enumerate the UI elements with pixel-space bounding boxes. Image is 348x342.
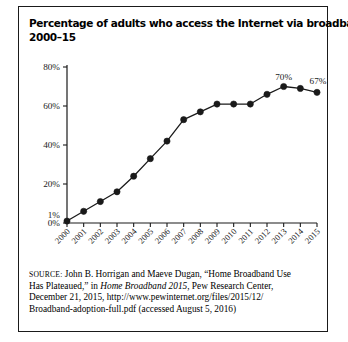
data-series-broadband (64, 83, 320, 224)
x-axis-tick-label: 2002 (86, 226, 105, 245)
data-point (81, 208, 87, 214)
figure-container: Percentage of adults who access the Inte… (18, 6, 328, 332)
source-text: Broadband-adoption-full.pdf (accessed Au… (29, 304, 236, 314)
x-axis-tick-label: 2003 (103, 226, 122, 245)
x-axis-tick-label: 2014 (286, 226, 306, 246)
data-point-label: 67% (310, 76, 327, 86)
data-point (131, 173, 137, 179)
series-line (67, 87, 317, 222)
y-axis-tick-label: 20% (43, 179, 60, 189)
source-line: Has Plateaued,” in Home Broadband 2015, … (29, 281, 319, 293)
x-axis-tick-label: 2015 (303, 226, 322, 245)
y-axis-tick-label: 60% (43, 101, 60, 111)
chart-title-line-2: 2000–15 (29, 30, 319, 44)
source-text: December 21, 2015, http://www.pewinterne… (29, 292, 263, 302)
x-axis-tick-label: 2007 (169, 226, 189, 246)
x-axis-tick-label: 2005 (136, 226, 155, 245)
x-axis-tick-label: 2011 (236, 226, 255, 245)
data-point (231, 101, 237, 107)
source-note: SOURCE: John B. Horrigan and Maeve Dugan… (29, 269, 319, 315)
data-point (64, 218, 70, 224)
data-point (214, 101, 220, 107)
chart-title-line-1: Percentage of adults who access the Inte… (29, 16, 319, 30)
data-point-label: 70% (275, 72, 292, 82)
y-axis-tick-label: 80% (43, 62, 60, 72)
chart-title: Percentage of adults who access the Inte… (29, 16, 319, 44)
x-axis-tick-label: 2001 (69, 226, 88, 245)
data-point (164, 138, 170, 144)
data-point-label: 1% (48, 210, 61, 220)
source-line: Broadband-adoption-full.pdf (accessed Au… (29, 304, 319, 316)
y-axis-tick-label: 0% (48, 218, 61, 228)
data-point (281, 83, 287, 89)
x-axis-tick-label: 2010 (219, 226, 238, 245)
data-point (314, 89, 320, 95)
data-point (247, 101, 253, 107)
x-axis-tick-label: 2004 (119, 226, 139, 246)
data-point (181, 117, 187, 123)
data-labels: 1%70%67% (48, 72, 327, 220)
data-point (297, 85, 303, 91)
source-text: Has Plateaued,” in (29, 281, 100, 291)
source-text: John B. Horrigan and Maeve Dugan, “Home … (62, 269, 291, 279)
line-chart-svg: 0%20%40%60%80% 2000200120022003200420052… (19, 53, 329, 269)
x-axis-tick-label: 2009 (203, 226, 222, 245)
x-axis-tick-label: 2000 (53, 226, 72, 245)
source-text: , Pew Research Center, (187, 281, 273, 291)
data-point (197, 109, 203, 115)
x-axis: 2000200120022003200420052006200720082009… (53, 223, 322, 246)
y-axis-tick-label: 40% (43, 140, 60, 150)
data-point (97, 198, 103, 204)
x-axis-tick-label: 2008 (186, 226, 205, 245)
source-line: December 21, 2015, http://www.pewinterne… (29, 292, 319, 304)
x-axis-tick-label: 2013 (269, 226, 288, 245)
x-axis-tick-label: 2006 (153, 226, 173, 246)
data-point (147, 156, 153, 162)
chart-plot-area: 0%20%40%60%80% 2000200120022003200420052… (19, 53, 329, 269)
data-point (264, 91, 270, 97)
x-axis-tick-label: 2012 (253, 226, 272, 245)
data-point (114, 189, 120, 195)
source-text: Home Broadband 2015 (100, 281, 187, 291)
source-label: SOURCE: (29, 270, 62, 279)
y-axis: 0%20%40%60%80% (43, 62, 67, 228)
source-line: SOURCE: John B. Horrigan and Maeve Dugan… (29, 269, 319, 281)
